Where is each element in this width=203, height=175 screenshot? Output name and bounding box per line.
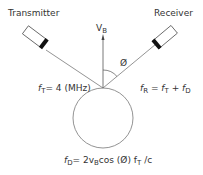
transmitter-label: Transmitter — [8, 8, 59, 18]
angle-label: Ø — [120, 58, 127, 68]
velocity-label: VB — [96, 23, 107, 33]
angle-arc — [103, 70, 117, 77]
receiver-label: Receiver — [154, 8, 193, 18]
receiver-beam-line — [103, 44, 156, 88]
sample-volume-circle — [73, 88, 133, 148]
receive-frequency-label: fR = fT + fD — [140, 83, 191, 93]
doppler-formula: fD= 2vBcos (Ø) fT /c — [64, 155, 152, 165]
transmitter-transducer — [22, 25, 49, 49]
receiver-transducer — [152, 25, 178, 49]
transmit-frequency-label: fT= 4 (MHz) — [38, 83, 91, 93]
